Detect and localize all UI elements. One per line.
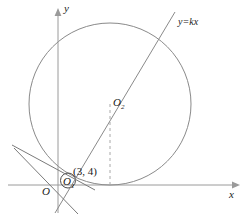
geometry-figure: y x O O1 O2 (3, 4) y=kx [0,0,246,217]
y-axis-arrow [55,8,62,16]
origin-label: O [42,186,50,197]
o1-subscript: 1 [71,182,75,190]
o2-letter: O [113,96,121,108]
point-coordinate-label: (3, 4) [73,166,97,177]
o2-subscript: 2 [121,103,125,111]
circle-big-center-label: O2 [113,97,124,111]
x-axis-label: x [229,189,234,200]
o1-letter: O [63,175,71,187]
y-axis-label: y [64,3,69,14]
circle-small-center-label: O1 [63,176,74,190]
line-equation-label: y=kx [178,17,198,27]
